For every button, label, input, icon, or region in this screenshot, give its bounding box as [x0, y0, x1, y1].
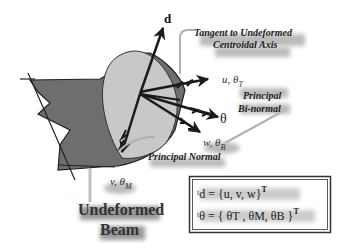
theta-equation: ᵗθ = { θT , θM, θB }T	[197, 207, 299, 223]
svg-text:d: d	[164, 11, 172, 26]
svg-text:Bi-normal: Bi-normal	[237, 103, 281, 114]
label-principal-normal: Principal Normal	[148, 151, 225, 167]
label-d: d	[164, 11, 172, 26]
svg-text:Principal Normal: Principal Normal	[148, 151, 221, 162]
label-v-theta-m: v, θM	[104, 175, 136, 194]
svg-text:u, θT: u, θT	[222, 73, 243, 89]
d-equation: ᵗd = {u, v, w}T	[197, 185, 267, 201]
label-undeformed-beam: Undeformed Beam	[78, 201, 164, 240]
equation-box: ᵗd = {u, v, w}T ᵗθ = { θT , θM, θB }T	[190, 177, 331, 233]
label-theta: θ	[220, 111, 227, 126]
svg-text:Centroidal Axis: Centroidal Axis	[213, 39, 277, 50]
svg-text:Principal: Principal	[243, 90, 282, 101]
beam-diagram: d Tangent to Undeformed Centroidal Axis …	[0, 0, 347, 250]
label-tangent: Tangent to Undeformed Centroidal Axis	[194, 27, 305, 57]
label-principal-binormal: Principal Bi-normal	[237, 88, 290, 114]
svg-text:Undeformed: Undeformed	[78, 201, 164, 218]
svg-text:Tangent to Undeformed: Tangent to Undeformed	[194, 27, 293, 38]
label-u-theta-t: u, θT	[222, 73, 243, 89]
svg-text:θ: θ	[220, 111, 227, 126]
undeformed-beam-shape	[20, 51, 185, 202]
svg-text:Beam: Beam	[100, 221, 140, 238]
